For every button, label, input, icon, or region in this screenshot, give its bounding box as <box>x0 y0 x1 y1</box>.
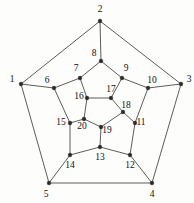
graph-node-label-1: 1 <box>10 74 15 84</box>
graph-node-3[interactable] <box>179 82 183 86</box>
graph-node-12[interactable] <box>128 153 132 157</box>
graph-node-2[interactable] <box>98 19 102 23</box>
graph-edge-1-2 <box>21 21 100 84</box>
graph-node-label-17: 17 <box>106 84 116 94</box>
graph-node-6[interactable] <box>52 86 56 90</box>
graph-canvas: 1234567891011121314151617181920 <box>0 0 194 203</box>
graph-figure: 1234567891011121314151617181920 <box>0 0 194 203</box>
graph-node-label-2: 2 <box>98 4 103 14</box>
graph-node-label-19: 19 <box>102 125 112 135</box>
graph-edge-6-7 <box>54 78 80 88</box>
graph-edge-11-12 <box>130 123 135 155</box>
graph-node-1[interactable] <box>19 82 23 86</box>
graph-node-label-4: 4 <box>150 189 155 199</box>
graph-node-10[interactable] <box>146 86 150 90</box>
graph-edge-3-4 <box>152 84 181 183</box>
graph-edge-13-19 <box>100 127 101 147</box>
graph-node-13[interactable] <box>98 145 102 149</box>
graph-node-label-15: 15 <box>56 117 66 127</box>
graph-edge-11-18 <box>123 112 135 123</box>
graph-node-label-9: 9 <box>124 63 129 73</box>
graph-node-label-3: 3 <box>187 74 192 84</box>
graph-node-17[interactable] <box>109 96 113 100</box>
graph-node-7[interactable] <box>78 76 82 80</box>
graph-node-label-8: 8 <box>92 48 97 58</box>
graph-node-label-14: 14 <box>65 160 75 170</box>
graph-edge-5-1 <box>21 84 49 183</box>
graph-node-14[interactable] <box>68 153 72 157</box>
graph-edge-2-8 <box>100 21 101 61</box>
graph-edge-7-8 <box>80 61 101 78</box>
graph-node-4[interactable] <box>150 181 154 185</box>
graph-node-5[interactable] <box>47 181 51 185</box>
graph-edge-9-10 <box>122 78 148 88</box>
graph-node-8[interactable] <box>99 59 103 63</box>
graph-node-18[interactable] <box>121 110 125 114</box>
graph-node-9[interactable] <box>120 76 124 80</box>
graph-node-label-20: 20 <box>77 121 87 131</box>
graph-node-label-11: 11 <box>136 117 145 127</box>
graph-node-label-16: 16 <box>74 91 84 101</box>
graph-node-15[interactable] <box>68 121 72 125</box>
graph-edge-20-16 <box>84 98 87 119</box>
graph-node-label-5: 5 <box>44 189 49 199</box>
graph-node-label-13: 13 <box>95 152 105 162</box>
graph-node-label-18: 18 <box>121 100 131 110</box>
graph-node-label-6: 6 <box>45 75 50 85</box>
graph-edge-8-9 <box>101 61 122 78</box>
graph-edge-2-3 <box>100 21 181 84</box>
graph-node-label-12: 12 <box>125 160 135 170</box>
graph-node-16[interactable] <box>85 96 89 100</box>
graph-node-label-10: 10 <box>147 75 157 85</box>
graph-node-label-7: 7 <box>74 63 79 73</box>
